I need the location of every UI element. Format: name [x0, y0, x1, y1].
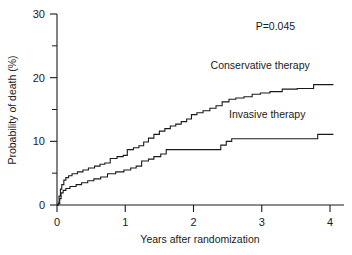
- y-axis-tick-labels: 0102030: [33, 8, 45, 211]
- x-tick-label-3: 3: [259, 216, 265, 228]
- x-tick-label-4: 4: [327, 216, 333, 228]
- y-axis-ticks: [50, 14, 57, 205]
- y-axis-title: Probability of death (%): [6, 55, 18, 164]
- curve-invasive-therapy: [57, 134, 333, 205]
- kaplan-meier-figure: 0102030 01234 Probability of death (%) Y…: [0, 0, 352, 255]
- x-axis-ticks: [57, 205, 330, 212]
- x-axis-tick-labels: 01234: [54, 216, 333, 228]
- y-tick-label-20: 20: [33, 72, 45, 84]
- x-tick-label-0: 0: [54, 216, 60, 228]
- y-tick-label-10: 10: [33, 135, 45, 147]
- series-group: [57, 85, 333, 205]
- y-tick-label-30: 30: [33, 8, 45, 20]
- y-tick-label-0: 0: [39, 199, 45, 211]
- curve-conservative-therapy: [57, 85, 333, 205]
- x-axis-title: Years after randomization: [140, 233, 259, 245]
- x-tick-label-1: 1: [122, 216, 128, 228]
- series-label-invasive-therapy: Invasive therapy: [229, 108, 306, 120]
- series-label-conservative-therapy: Conservative therapy: [211, 59, 311, 71]
- chart-annotations: P=0.045: [256, 20, 296, 32]
- x-tick-label-2: 2: [190, 216, 196, 228]
- chart-canvas: 0102030 01234 Probability of death (%) Y…: [0, 0, 352, 255]
- annotation-p-value: P=0.045: [256, 20, 296, 32]
